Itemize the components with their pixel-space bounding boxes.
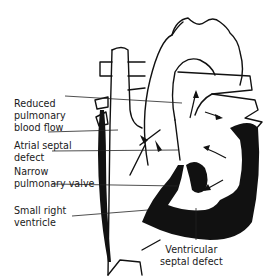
aortic-arch [144,18,242,165]
label-atrial-septal-defect: Atrial septal defect [14,140,72,164]
heart-illustration [0,0,278,278]
label-ventricular-septal-defect: Ventricular septal defect [160,244,223,268]
label-reduced-pulmonary-blood-flow: Reduced pulmonary blood flow [14,98,66,134]
septum [186,162,208,193]
vena-cava [112,48,142,129]
pulmonary-trunk [178,72,252,115]
label-small-right-ventricle: Small right ventricle [14,205,66,229]
heart-diagram: Reduced pulmonary blood flow Atrial sept… [0,0,278,278]
label-narrow-pulmonary-valve: Narrow pulmonary valve [14,166,94,190]
